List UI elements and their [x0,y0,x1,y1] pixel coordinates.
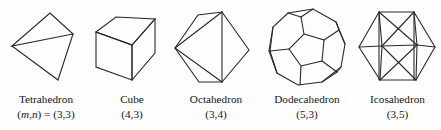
solids-drawings-row [0,0,441,92]
schlafli-m-symbol: m [21,108,29,120]
solid-drawing-icosahedron [354,0,441,92]
label-tetrahedron-name: Tetrahedron [0,92,92,107]
platonic-solids-figure: Tetrahedron (m,n) = (3,3) Cube (4,3) Oct… [0,0,441,130]
label-dodecahedron-name: Dodecahedron [260,92,354,107]
octahedron-svg [172,0,260,92]
label-cube-schlafli: (4,3) [92,107,172,122]
label-tetrahedron-schlafli: (m,n) = (3,3) [0,107,92,122]
solids-labels-row: Tetrahedron (m,n) = (3,3) Cube (4,3) Oct… [0,92,441,130]
cube-svg [92,0,172,92]
tetrahedron-svg [0,0,92,92]
solid-drawing-octahedron [172,0,260,92]
label-dodecahedron-schlafli: (5,3) [260,107,354,122]
label-cube-name: Cube [92,92,172,107]
solid-drawing-cube [92,0,172,92]
dodecahedron-svg [260,0,354,92]
label-icosahedron-name: Icosahedron [354,92,441,107]
label-cube: Cube (4,3) [92,92,172,122]
label-dodecahedron: Dodecahedron (5,3) [260,92,354,122]
solid-drawing-dodecahedron [260,0,354,92]
label-icosahedron: Icosahedron (3,5) [354,92,441,122]
label-octahedron: Octahedron (3,4) [172,92,260,122]
solid-drawing-tetrahedron [0,0,92,92]
icosahedron-svg [354,0,441,92]
label-tetrahedron: Tetrahedron (m,n) = (3,3) [0,92,92,122]
label-octahedron-schlafli: (3,4) [172,107,260,122]
label-octahedron-name: Octahedron [172,92,260,107]
label-icosahedron-schlafli: (3,5) [354,107,441,122]
schlafli-value: ) = (3,3) [38,108,75,120]
